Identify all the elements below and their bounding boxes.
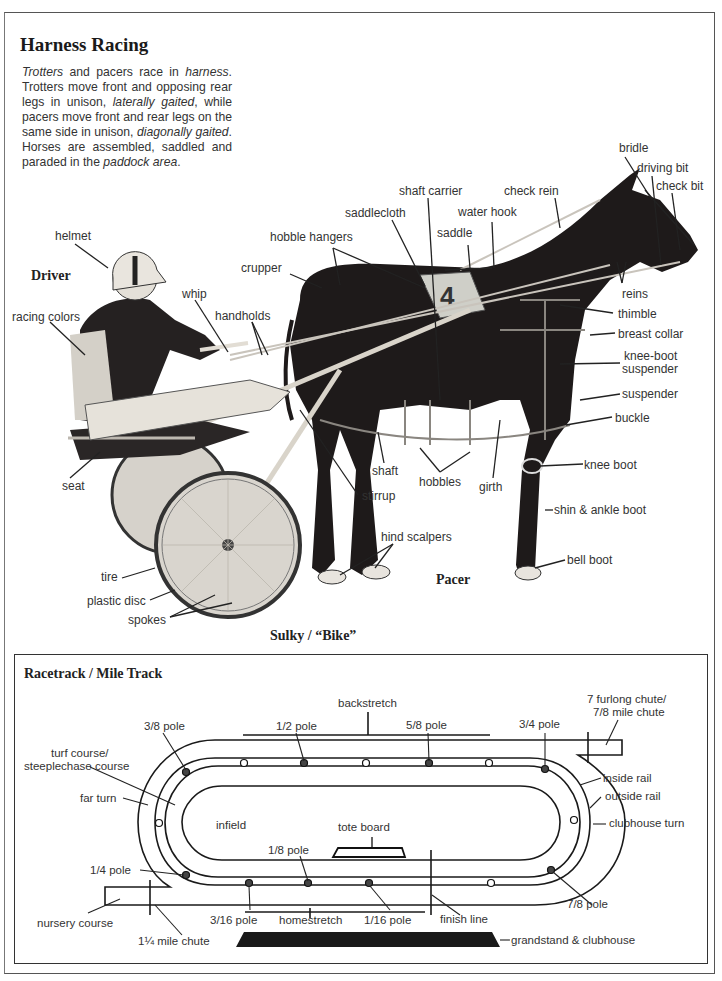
label-pole-3-16: 3/16 pole	[210, 914, 257, 927]
label-nursery-course: nursery course	[37, 917, 113, 930]
label-finish-line: finish line	[440, 913, 488, 926]
label-homestretch: homestretch	[279, 914, 342, 927]
label-clubhouse-turn: clubhouse turn	[609, 817, 684, 830]
label-turf-line1: turf course/	[51, 747, 109, 760]
tote-board	[333, 848, 405, 857]
label-pole-3-4: 3/4 pole	[519, 718, 560, 731]
label-grandstand: grandstand & clubhouse	[511, 934, 635, 947]
label-outside-rail: outside rail	[605, 790, 661, 803]
label-pole-3-8: 3/8 pole	[144, 720, 185, 733]
label-chute-7f-line2: 7/8 mile chute	[593, 706, 665, 719]
label-backstretch: backstretch	[338, 697, 397, 710]
label-inside-rail: inside rail	[603, 772, 652, 785]
label-pole-7-8: 7/8 pole	[567, 898, 608, 911]
label-pole-1-4: 1/4 pole	[90, 864, 131, 877]
label-far-turn: far turn	[80, 792, 116, 805]
grandstand	[236, 932, 500, 947]
label-pole-1-2: 1/2 pole	[276, 720, 317, 733]
label-infield: infield	[216, 819, 246, 832]
label-pole-5-8: 5/8 pole	[406, 719, 447, 732]
label-pole-1-8: 1/8 pole	[268, 844, 309, 857]
label-chute-7f-line1: 7 furlong chute/	[587, 693, 666, 706]
label-tote-board: tote board	[338, 821, 390, 834]
label-turf-line2: steeplechase course	[24, 760, 129, 773]
label-pole-1-16: 1/16 pole	[364, 914, 411, 927]
label-mile-chute: 1¼ mile chute	[138, 935, 210, 948]
